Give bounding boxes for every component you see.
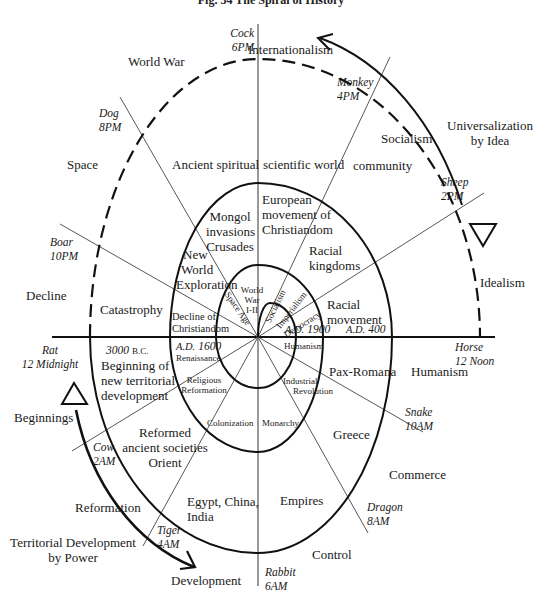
label-universalization: Universalizationby Idea [440, 118, 540, 148]
label-catastrophy: Catastrophy [100, 302, 163, 317]
label-development: Development [171, 573, 241, 588]
label-reformed-ancient-societies: Reformedancient societiesOrient [117, 425, 213, 470]
marker-monkey: Monkey4PM [337, 75, 373, 103]
label-industrial-revolution: IndustrialRevolution [283, 376, 333, 396]
label-decline: Decline [26, 288, 66, 303]
label-colonization: Colonization [207, 418, 254, 428]
label-beginnings: Beginnings [14, 410, 73, 425]
label-european-movement: Europeanmovement ofChristiandom [262, 192, 333, 237]
label-greece: Greece [333, 427, 370, 442]
label-3000-bc: 3000 B.C. [106, 343, 148, 358]
label-renaissance: Renaissance [176, 353, 220, 363]
label-racial-kingdoms: Racialkingdoms [309, 243, 360, 273]
marker-rat: Rat12 Midnight [10, 343, 90, 371]
label-control: Control [312, 547, 352, 562]
marker-sheep: Sheep2PM [441, 175, 468, 203]
label-decline-of-christiandom: Decline ofChristiandom [172, 311, 229, 335]
label-humanism-inner: Humanism [284, 341, 324, 351]
label-pax-romana: Pax-Romana [329, 364, 396, 379]
label-socialism-outer: Socialism [381, 131, 432, 146]
label-internationalism: Internationalism [248, 42, 333, 57]
marker-dog: Dog8PM [99, 106, 121, 134]
triangle-icon [62, 383, 87, 404]
label-egypt-china-india: Egypt, China,India [187, 494, 259, 524]
label-humanism-outer: Humanism [411, 364, 468, 379]
label-new-world-exploration: NewWorldExploration [176, 247, 237, 292]
label-reformation: Reformation [75, 500, 141, 515]
label-ad-1600: A.D. 1600 [176, 339, 221, 353]
label-monarchy: Monarchy [262, 418, 299, 428]
label-empires: Empires [280, 493, 323, 508]
label-ad-400: A.D. 400 [346, 322, 385, 336]
arrowhead-down [180, 551, 195, 569]
marker-tiger: Tiger4AM [157, 523, 181, 551]
marker-snake: Snake10AM [405, 405, 433, 433]
label-world-war: World War [128, 54, 185, 69]
marker-boar: Boar10PM [50, 235, 78, 263]
label-beginning-territorial: Beginning ofnew territorialdevelopment [101, 358, 175, 403]
label-commerce: Commerce [389, 467, 446, 482]
marker-dragon: Dragon8AM [367, 500, 403, 528]
marker-cow: Cow2AM [93, 440, 115, 468]
spiral-of-history-figure: Fig. 34 The Spiral of History [0, 0, 542, 604]
label-territorial-development: Territorial Developmentby Power [8, 535, 138, 565]
marker-rabbit: Rabbit6AM [265, 565, 296, 593]
inverted-triangle-icon [470, 224, 496, 246]
label-ancient-spiritual: Ancient spiritual [172, 157, 259, 172]
label-idealism: Idealism [480, 275, 525, 290]
label-scientific-world: scientific world [263, 157, 344, 172]
label-community: community [353, 158, 412, 173]
label-space: Space [67, 157, 98, 172]
label-religious-reformation: ReligiousReformation [176, 375, 232, 395]
